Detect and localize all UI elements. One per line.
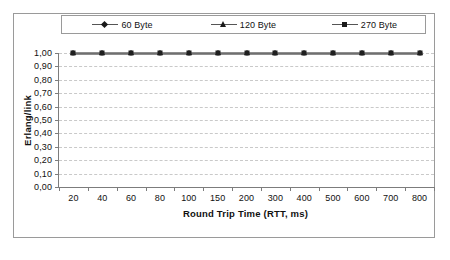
x-axis-tick-label: 20	[68, 193, 78, 203]
series-line-270-byte	[218, 53, 247, 54]
gridline	[59, 93, 434, 94]
series-line-270-byte	[247, 53, 276, 54]
triangle-marker-icon	[211, 20, 237, 29]
data-point	[186, 51, 191, 56]
data-point	[244, 51, 249, 56]
chart-frame: 60 Byte 120 Byte 270 Byte Erlang/link 0,…	[13, 13, 435, 238]
data-point	[215, 51, 220, 56]
x-axis-tick-label: 700	[383, 193, 398, 203]
y-axis-title: Erlang/link	[21, 53, 34, 187]
square-marker-icon	[332, 20, 358, 29]
x-axis-tick	[174, 187, 175, 191]
data-point	[273, 51, 278, 56]
y-axis-tick	[55, 107, 59, 108]
x-axis-tick	[319, 187, 320, 191]
x-axis-tick	[146, 187, 147, 191]
x-axis-tick	[203, 187, 204, 191]
data-point	[302, 51, 307, 56]
gridline	[59, 120, 434, 121]
x-axis-tick-label: 300	[268, 193, 283, 203]
y-axis-tick	[55, 53, 59, 54]
gridline	[59, 174, 434, 175]
y-axis-tick-label: 0,30	[34, 142, 52, 152]
legend-item-120-byte: 120 Byte	[183, 20, 304, 30]
x-axis-tick	[347, 187, 348, 191]
x-axis-tick-label: 150	[210, 193, 225, 203]
x-axis-tick	[290, 187, 291, 191]
series-line-270-byte	[102, 53, 131, 54]
series-line-270-byte	[131, 53, 160, 54]
x-axis-tick	[405, 187, 406, 191]
plot-area: 0,000,100,200,300,400,500,600,700,800,90…	[58, 53, 434, 188]
data-point	[359, 51, 364, 56]
x-axis-tick-label: 600	[354, 193, 369, 203]
y-axis-tick	[55, 133, 59, 134]
gridline	[59, 133, 434, 134]
data-point	[100, 51, 105, 56]
y-axis-tick	[55, 80, 59, 81]
y-axis-tick	[55, 120, 59, 121]
x-axis-tick-label: 200	[239, 193, 254, 203]
x-axis-tick-label: 800	[412, 193, 427, 203]
y-axis-tick	[55, 147, 59, 148]
data-point	[388, 51, 393, 56]
legend-item-60-byte: 60 Byte	[62, 20, 183, 30]
x-axis-tick-label: 100	[181, 193, 196, 203]
series-line-270-byte	[189, 53, 218, 54]
x-axis-title: Round Trip Time (RTT, ms)	[58, 208, 433, 219]
x-axis-tick-label: 500	[325, 193, 340, 203]
y-axis-tick-label: 0,50	[34, 115, 52, 125]
series-line-270-byte	[160, 53, 189, 54]
gridline	[59, 66, 434, 67]
data-point	[157, 51, 162, 56]
x-axis-tick-label: 80	[155, 193, 165, 203]
y-axis-tick	[55, 66, 59, 67]
x-axis-tick-label: 400	[297, 193, 312, 203]
data-point	[331, 51, 336, 56]
series-line-270-byte	[333, 53, 362, 54]
gridline	[59, 147, 434, 148]
y-axis-tick-label: 0,80	[34, 75, 52, 85]
series-line-270-byte	[304, 53, 333, 54]
chart-legend: 60 Byte 120 Byte 270 Byte	[61, 15, 426, 34]
y-axis-tick-label: 0,20	[34, 155, 52, 165]
y-axis-tick-label: 0,60	[34, 102, 52, 112]
gridline	[59, 107, 434, 108]
y-axis-tick-label: 0,10	[34, 169, 52, 179]
data-point	[71, 51, 76, 56]
legend-label-270-byte: 270 Byte	[361, 20, 397, 30]
x-axis-tick	[434, 187, 435, 191]
x-axis-tick	[117, 187, 118, 191]
y-axis-tick	[55, 174, 59, 175]
gridline	[59, 160, 434, 161]
legend-label-120-byte: 120 Byte	[240, 20, 276, 30]
y-axis-tick-label: 0,00	[34, 182, 52, 192]
y-axis-tick-label: 0,40	[34, 128, 52, 138]
series-line-270-byte	[275, 53, 304, 54]
series-line-270-byte	[362, 53, 391, 54]
x-axis-tick	[232, 187, 233, 191]
x-axis-tick	[261, 187, 262, 191]
gridline	[59, 80, 434, 81]
y-axis-tick	[55, 93, 59, 94]
y-axis-tick-label: 0,70	[34, 88, 52, 98]
diamond-marker-icon	[92, 20, 118, 29]
data-point	[417, 51, 422, 56]
y-axis-tick-label: 0,90	[34, 61, 52, 71]
series-line-270-byte	[73, 53, 102, 54]
series-line-270-byte	[391, 53, 420, 54]
x-axis-tick	[88, 187, 89, 191]
x-axis-tick-label: 40	[97, 193, 107, 203]
x-axis-tick-label: 60	[126, 193, 136, 203]
x-axis-tick	[376, 187, 377, 191]
legend-label-60-byte: 60 Byte	[121, 20, 152, 30]
y-axis-title-text: Erlang/link	[22, 95, 33, 146]
y-axis-tick-label: 1,00	[34, 48, 52, 58]
data-point	[129, 51, 134, 56]
x-axis-tick	[59, 187, 60, 191]
y-axis-tick	[55, 160, 59, 161]
legend-item-270-byte: 270 Byte	[304, 20, 425, 30]
